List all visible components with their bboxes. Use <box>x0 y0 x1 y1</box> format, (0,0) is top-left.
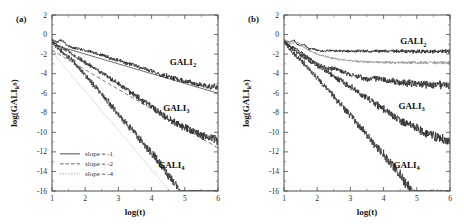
y-tick-label: -4 <box>273 69 279 78</box>
y-tick-label: -12 <box>269 147 279 156</box>
y-tick-label: 2 <box>275 11 279 20</box>
x-tick-label: 2 <box>315 194 319 203</box>
chart-panel-b: (b)12345620-2-4-6-8-10-12-14-16log(t)log… <box>232 0 464 224</box>
y-tick-label: 0 <box>275 30 279 39</box>
x-tick-label: 1 <box>282 194 286 203</box>
y-tick-label: -6 <box>273 89 279 98</box>
plot-background <box>52 15 218 191</box>
x-tick-label: 1 <box>50 194 54 203</box>
x-tick-label: 4 <box>150 194 154 203</box>
x-tick-label: 4 <box>382 194 386 203</box>
panel-b-svg: (b)12345620-2-4-6-8-10-12-14-16log(t)log… <box>232 0 464 224</box>
y-axis-title: log(GALIks) <box>241 79 252 127</box>
legend-label-0: slope = -1 <box>85 150 114 158</box>
y-tick-label: 2 <box>43 11 47 20</box>
y-tick-label: -16 <box>37 187 47 196</box>
panel-tag: (b) <box>248 14 259 24</box>
curve-annotation-GALI2: GALI2 <box>400 36 426 48</box>
x-axis-title: log(t) <box>125 207 146 217</box>
y-tick-label: -14 <box>37 167 47 176</box>
svg-text:GALI4: GALI4 <box>158 160 185 172</box>
x-tick-label: 3 <box>117 194 121 203</box>
curve-annotation-GALI3: GALI3 <box>399 101 426 113</box>
x-tick-label: 6 <box>216 194 220 203</box>
y-tick-label: -6 <box>41 89 47 98</box>
curve-annotation-GALI3: GALI3 <box>163 103 190 115</box>
chart-panel-a: (a)12345620-2-4-6-8-10-12-14-16log(t)log… <box>0 0 232 224</box>
svg-text:GALI2: GALI2 <box>170 57 196 69</box>
curve-annotation-GALI4: GALI4 <box>394 160 421 172</box>
y-tick-label: -14 <box>269 167 279 176</box>
x-tick-label: 6 <box>448 194 452 203</box>
x-tick-label: 3 <box>349 194 353 203</box>
y-tick-label: -8 <box>41 108 47 117</box>
svg-text:GALI4: GALI4 <box>394 160 421 172</box>
legend-label-1: slope = -2 <box>85 160 114 168</box>
y-tick-label: -2 <box>273 50 279 59</box>
x-tick-label: 2 <box>83 194 87 203</box>
y-tick-label: -12 <box>37 147 47 156</box>
svg-text:log(GALIks): log(GALIks) <box>241 79 252 127</box>
panel-a-svg: (a)12345620-2-4-6-8-10-12-14-16log(t)log… <box>0 0 232 224</box>
y-tick-label: -8 <box>273 108 279 117</box>
x-axis-title: log(t) <box>357 207 378 217</box>
panel-tag: (a) <box>16 14 27 24</box>
y-tick-label: -2 <box>41 50 47 59</box>
curve-annotation-GALI2: GALI2 <box>170 57 196 69</box>
svg-text:GALI2: GALI2 <box>400 36 426 48</box>
y-tick-label: -16 <box>269 187 279 196</box>
svg-text:GALI3: GALI3 <box>399 101 426 113</box>
y-tick-label: -10 <box>269 128 279 137</box>
y-axis-title: log(GALIks) <box>9 79 20 127</box>
svg-text:log(GALIks): log(GALIks) <box>9 79 20 127</box>
svg-text:GALI3: GALI3 <box>163 103 190 115</box>
x-tick-label: 5 <box>415 194 419 203</box>
y-tick-label: -4 <box>41 69 47 78</box>
x-tick-label: 5 <box>183 194 187 203</box>
figure-container: (a)12345620-2-4-6-8-10-12-14-16log(t)log… <box>0 0 464 224</box>
y-tick-label: 0 <box>43 30 47 39</box>
legend-label-2: slope = -4 <box>85 170 114 178</box>
curve-annotation-GALI4: GALI4 <box>158 160 185 172</box>
y-tick-label: -10 <box>37 128 47 137</box>
